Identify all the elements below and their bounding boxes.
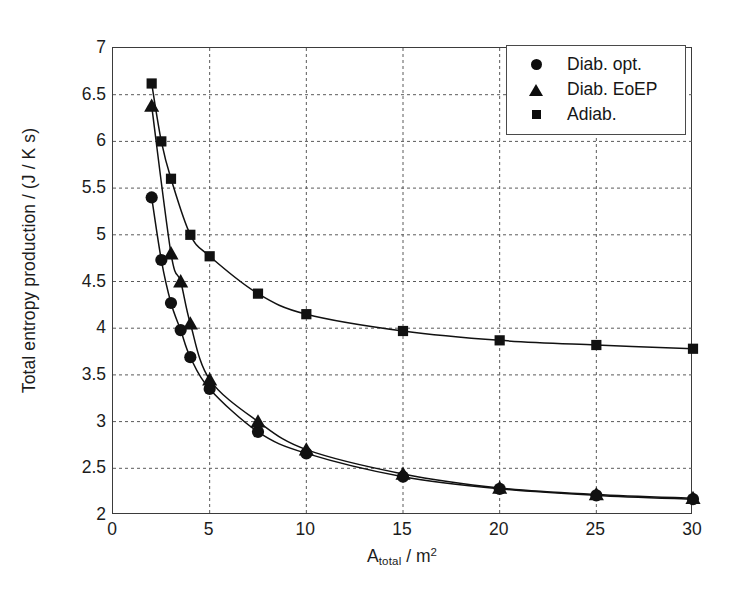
y-tick-label: 6.5 — [60, 83, 106, 104]
legend-label: Adiab. — [567, 104, 617, 125]
data-point-marker — [144, 99, 159, 112]
y-axis-label: Total entropy production / (J / K s) — [20, 127, 41, 392]
y-tick-label: 2.5 — [60, 457, 106, 478]
data-point-marker — [166, 174, 176, 184]
triangle-marker-icon — [521, 84, 551, 96]
data-point-marker — [301, 309, 311, 319]
data-point-marker — [173, 274, 188, 287]
x-axis-label-symbol: A — [367, 546, 379, 566]
legend-label: Diab. opt. — [567, 54, 642, 75]
x-tick-label: 20 — [469, 519, 529, 540]
data-point-marker — [163, 246, 178, 259]
legend-item-1[interactable]: Diab. opt. — [507, 52, 685, 77]
x-axis-label-units: / m — [401, 546, 430, 566]
data-point-marker — [184, 351, 196, 363]
data-point-marker — [253, 289, 263, 299]
y-axis-tick-labels: 22.533.544.555.566.57 — [56, 0, 106, 597]
legend-label: Diab. EoEP — [567, 79, 657, 100]
x-tick-label: 30 — [662, 519, 722, 540]
y-tick-label: 4.5 — [60, 270, 106, 291]
y-axis-label-container: Total entropy production / (J / K s) — [10, 0, 50, 520]
data-point-marker — [202, 372, 217, 385]
data-point-marker — [252, 426, 264, 438]
x-axis-label: Atotal / m2 — [112, 546, 692, 567]
data-point-marker — [183, 316, 198, 329]
data-point-marker — [688, 344, 698, 354]
x-tick-label: 10 — [275, 519, 335, 540]
triangle-glyph — [529, 84, 543, 96]
x-tick-label: 25 — [565, 519, 625, 540]
x-axis-label-superscript: 2 — [431, 546, 437, 558]
data-point-marker — [299, 442, 314, 455]
data-point-marker — [398, 326, 408, 336]
x-axis-label-subscript: total — [379, 555, 402, 567]
data-point-marker — [250, 414, 265, 427]
data-point-marker — [156, 136, 166, 146]
data-point-marker — [591, 340, 601, 350]
data-point-marker — [146, 191, 158, 203]
y-tick-label: 3 — [60, 410, 106, 431]
series-triangle — [144, 99, 700, 505]
legend-item-2[interactable]: Diab. EoEP — [507, 77, 685, 102]
circle-marker-icon — [521, 59, 551, 70]
y-tick-label: 3.5 — [60, 363, 106, 384]
legend-item-3[interactable]: Adiab. — [507, 102, 685, 127]
data-point-marker — [205, 251, 215, 261]
square-glyph — [532, 110, 541, 119]
y-tick-label: 7 — [60, 37, 106, 58]
x-tick-label: 0 — [82, 519, 142, 540]
chart-figure: Total entropy production / (J / K s) 22.… — [0, 0, 732, 597]
x-tick-label: 5 — [179, 519, 239, 540]
series-circle — [146, 191, 700, 505]
x-tick-label: 15 — [372, 519, 432, 540]
square-marker-icon — [521, 110, 551, 119]
plot-area: Diab. opt.Diab. EoEPAdiab. — [112, 47, 692, 514]
data-point-marker — [495, 335, 505, 345]
y-tick-label: 6 — [60, 130, 106, 151]
circle-glyph — [531, 59, 542, 70]
y-tick-label: 5.5 — [60, 177, 106, 198]
data-point-marker — [165, 297, 177, 309]
legend-box: Diab. opt.Diab. EoEPAdiab. — [506, 45, 686, 135]
y-tick-label: 4 — [60, 317, 106, 338]
data-point-marker — [147, 78, 157, 88]
y-tick-label: 5 — [60, 223, 106, 244]
data-point-marker — [185, 230, 195, 240]
